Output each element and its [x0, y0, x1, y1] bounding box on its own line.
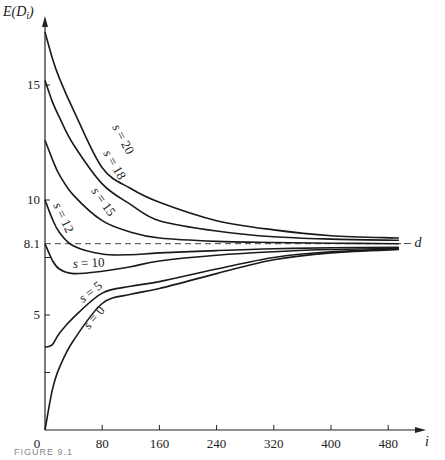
curve-s0 [45, 250, 399, 431]
y-ticks: 58.11015 [24, 77, 50, 373]
figure-caption: FIGURE 9.1 [14, 447, 73, 457]
y-tick-label: 10 [27, 192, 40, 207]
x-ticks: 080160240320400480 [34, 425, 398, 451]
y-axis-label: E(Di) [2, 4, 34, 21]
curve-label-s10: s = 10 [72, 254, 105, 271]
curve-s12 [45, 200, 399, 255]
x-tick-label: 400 [321, 436, 341, 451]
reference-line-label: – d [403, 235, 423, 250]
x-tick-label: 160 [150, 436, 170, 451]
x-tick-label: 240 [207, 436, 227, 451]
y-tick-label: 15 [27, 77, 40, 92]
x-tick-label: 320 [264, 436, 284, 451]
x-axis-arrow-icon [415, 427, 426, 433]
y-tick-label: 8.1 [24, 236, 40, 251]
x-tick-label: 480 [378, 436, 398, 451]
chart-canvas: 58.11015 080160240320400480 E(Di) i – d … [0, 0, 445, 460]
y-tick-label: 5 [34, 307, 41, 322]
curves [45, 32, 399, 430]
y-axis-arrow-icon [42, 16, 48, 27]
curve-label-s12: s = 12 [50, 200, 77, 235]
x-axis-label: i [425, 434, 429, 449]
y-axis [42, 16, 48, 430]
x-tick-label: 80 [96, 436, 109, 451]
curve-s20 [45, 32, 399, 238]
